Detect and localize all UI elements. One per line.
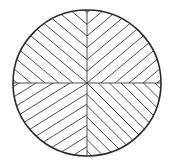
hatched-circle-figure: [0, 0, 169, 167]
hatch-line: [0, 29, 169, 167]
hatch-line: [0, 0, 169, 122]
hatched-circle-svg: [0, 0, 169, 167]
hatch-line: [0, 0, 169, 126]
hatch-line: [0, 0, 169, 167]
hatch-line: [0, 12, 158, 167]
hatch-line: [0, 0, 169, 126]
hatch-line: [0, 75, 169, 167]
hatch-line: [0, 47, 169, 167]
hatch-line: [0, 0, 169, 140]
hatch-line: [0, 6, 169, 167]
hatch-line: [16, 0, 169, 154]
hatch-line: [0, 0, 169, 129]
hatch-line: [11, 0, 169, 159]
hatch-line: [0, 0, 169, 160]
hatch-line: [0, 60, 169, 167]
hatch-line: [0, 6, 169, 167]
hatch-line: [0, 0, 169, 119]
hatch-line: [0, 0, 169, 106]
hatch-line: [0, 6, 169, 167]
hatch-line: [0, 0, 169, 119]
hatch-line: [0, 47, 169, 167]
hatch-line: [0, 0, 169, 160]
hatch-line: [0, 1, 169, 167]
hatch-line: [0, 0, 169, 140]
hatch-line: [0, 0, 169, 99]
hatch-line: [0, 0, 169, 76]
hatch-line: [0, 37, 169, 167]
quadrant-bottom-right-hatching: [0, 0, 169, 167]
hatch-line: [0, 0, 169, 160]
